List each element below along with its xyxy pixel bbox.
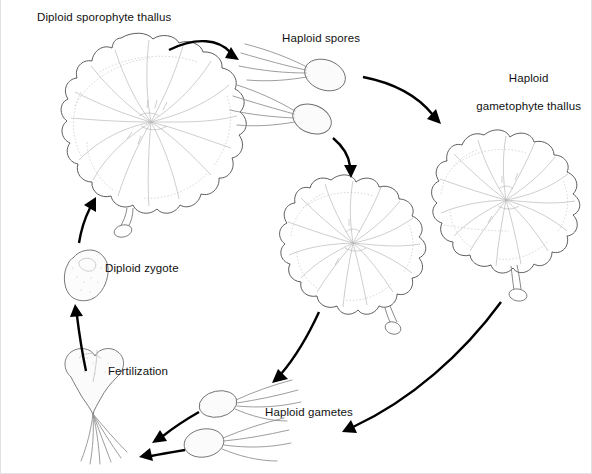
arrow-gametes-to-fertilization-lower [139,448,185,461]
label-fertilization: Fertilization [108,364,168,378]
label-haploid-gametophyte-thallus: Haploid gametophyte thallus [463,57,581,127]
organism-haploid-gametes [182,380,301,461]
organism-haploid-gametophyte-thallus-center [280,175,426,336]
gamete-lower [182,418,291,461]
label-diploid-zygote: Diploid zygote [105,261,179,275]
label-haploid-gametophyte-line2: gametophyte thallus [476,100,581,112]
arrow-right-gametophyte-to-gametes [342,302,501,433]
spore-flagella-upper [239,44,307,81]
organism-haploid-spores [230,44,350,139]
spore-upper [239,44,350,96]
organism-haploid-gametophyte-thallus-right [432,130,580,303]
fertilization-flagella [81,414,127,464]
organism-diploid-zygote [64,250,108,301]
label-diploid-sporophyte-thallus: Diploid sporophyte thallus [37,10,171,24]
gamete-flagella-lower [222,418,291,461]
label-haploid-gametes: Haploid gametes [265,405,353,419]
arrow-spores-to-center-gametophyte [333,138,357,178]
arrow-center-gametophyte-to-gametes [272,312,319,383]
thallus-holdfast [113,208,133,239]
label-haploid-spores: Haploid spores [282,31,360,45]
spore-lower [230,85,336,139]
arrow-spores-to-right-gametophyte [363,77,441,124]
life-cycle-diagram: Diploid sporophyte thallus Haploid spore… [0,0,592,474]
center-thallus-holdfast [384,306,403,336]
label-haploid-gametophyte-line1: Haploid [509,72,549,84]
arrow-zygote-to-sporophyte [79,197,96,243]
